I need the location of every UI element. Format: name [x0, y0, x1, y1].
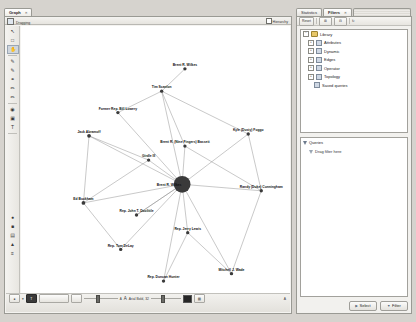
library-item-topology[interactable]: +Topology [301, 73, 407, 82]
graph-edge [162, 91, 182, 184]
library-root-label: Library [320, 32, 332, 37]
rectangle-icon: □ [11, 38, 14, 43]
filter-library-tree[interactable]: − Library +Attributes+Dynamic+Edges+Oper… [300, 29, 408, 133]
graph-node[interactable] [183, 67, 186, 70]
dragging-label: Dragging [16, 21, 30, 25]
select-button[interactable]: ▶ Select [349, 301, 377, 311]
triangle-icon: ▲ [10, 242, 15, 247]
library-item-operator[interactable]: +Operator [301, 64, 407, 73]
graph-node[interactable] [119, 248, 122, 251]
rectangle-select-tool[interactable]: □ [7, 36, 19, 45]
expander-icon[interactable]: + [308, 48, 314, 54]
label-scale-slider[interactable] [151, 295, 181, 302]
heatmap-tool[interactable]: ◉ [7, 105, 19, 114]
graph-node-label: Jack Abramoff [77, 130, 101, 134]
queries-panel[interactable]: Queries Drag filter here [300, 137, 408, 297]
hierarchy-button[interactable]: Hierarchy [266, 18, 288, 24]
graph-node-label: Girdle III [142, 154, 155, 158]
graph-node[interactable] [87, 134, 91, 138]
node-dot-icon: ● [11, 215, 14, 220]
font-value-field[interactable] [39, 294, 69, 303]
expander-icon[interactable]: − [303, 31, 309, 37]
size-tool[interactable]: ▣ [7, 114, 19, 123]
graph-node[interactable] [260, 189, 263, 192]
graph-node-label: Rep. John T. Doolittle [120, 209, 154, 213]
filter-button[interactable]: ▼ Filter [380, 301, 408, 311]
shortest-path-tool[interactable]: ⚭ [7, 75, 19, 84]
dragging-mode-button[interactable]: Dragging [5, 18, 32, 24]
heatmap-icon: ◉ [10, 107, 14, 112]
label-size-slider[interactable] [84, 295, 118, 302]
graph-nodes [82, 67, 263, 283]
label-dropdown-arrow-icon[interactable]: ▾ [22, 297, 24, 301]
slider-track [84, 298, 118, 299]
graph-node-label: Kyle (Dusty) Foggo [233, 128, 264, 132]
library-item-attributes[interactable]: +Attributes [301, 39, 407, 48]
drop-funnel-icon [309, 150, 313, 154]
font-button[interactable]: T [26, 294, 37, 303]
graph-node-label: Rep. Tom DeLay [108, 244, 134, 248]
library-root-row[interactable]: − Library [301, 30, 407, 39]
tool-divider-3 [7, 132, 19, 135]
slider-knob-2[interactable] [161, 295, 165, 303]
queries-placeholder: Drag filter here [315, 149, 341, 154]
label-attributes-tool[interactable]: ≡ [7, 249, 19, 258]
reset-label-button[interactable]: A [284, 297, 286, 301]
node-label-visible-button[interactable]: ● [9, 294, 20, 303]
font-icon: T [30, 297, 32, 301]
graph-node[interactable] [230, 272, 233, 275]
folder-icon [311, 31, 318, 37]
expander-icon[interactable]: + [308, 57, 314, 63]
graph-node[interactable] [160, 89, 163, 92]
font-color-button[interactable] [71, 294, 82, 303]
label-tool[interactable]: T [7, 123, 19, 132]
graph-node[interactable] [82, 201, 86, 205]
autorefresh-button[interactable]: ↻ [352, 19, 355, 23]
graph-window: Dragging Hierarchy ↖ □ ✋ ✎ ✎ ⚭ ✏ ✏ ◉ ▣ T… [4, 16, 292, 314]
edge-label-toggle[interactable]: ■ [7, 222, 19, 231]
tab-graph-label: Graph [9, 10, 21, 15]
expander-icon[interactable]: + [308, 40, 314, 46]
reset-button[interactable]: Reset [299, 17, 314, 26]
label-color-tool[interactable]: ▤ [7, 231, 19, 240]
graph-node[interactable] [135, 213, 138, 216]
graph-node[interactable] [116, 111, 119, 114]
graph-canvas[interactable]: Jack AbramoffEd BuckhamFormer Rep. Bill … [21, 26, 290, 294]
edge-weight-button[interactable]: ▤ [194, 294, 205, 303]
network-graph[interactable]: Jack AbramoffEd BuckhamFormer Rep. Bill … [21, 26, 290, 294]
drag-tool[interactable]: ✋ [7, 45, 19, 54]
brush-tool[interactable]: ✎ [7, 57, 19, 66]
node-pen-icon: ✏ [10, 95, 14, 100]
dock-action-buttons: ▶ Select ▼ Filter [297, 301, 408, 310]
paint-tool[interactable]: ✎ [7, 66, 19, 75]
graph-node[interactable] [183, 144, 186, 147]
slider-knob[interactable] [96, 295, 100, 303]
library-item-label: Saved queries [322, 83, 348, 88]
select-button-label: Select [360, 303, 371, 308]
library-item-dynamic[interactable]: +Dynamic [301, 47, 407, 56]
graph-edge [164, 233, 188, 281]
edge-color-swatch[interactable] [183, 295, 192, 303]
cursor-tool[interactable]: ↖ [7, 27, 19, 36]
graph-node[interactable] [147, 158, 150, 161]
node-pencil-tool[interactable]: ✏ [7, 93, 19, 102]
duplicate-filter-button[interactable]: ⊟ [334, 17, 347, 26]
library-item-saved-queries[interactable]: Saved queries [301, 81, 407, 90]
tab-graph-close-icon[interactable]: × [25, 10, 27, 15]
graph-node[interactable] [186, 231, 189, 234]
hand-icon: ✋ [10, 47, 16, 52]
edge-pencil-tool[interactable]: ✏ [7, 84, 19, 93]
graph-node[interactable] [247, 132, 250, 135]
library-item-edges[interactable]: +Edges [301, 56, 407, 65]
new-filter-button[interactable]: ⊞ [319, 17, 332, 26]
graph-bottom-row-1: ● ▾ T A A Arial Bold, 32 ▤ A [6, 294, 290, 303]
tab-filters-close-icon[interactable]: × [344, 10, 346, 15]
expander-icon[interactable]: + [308, 65, 314, 71]
node-label-toggle[interactable]: ● [7, 213, 19, 222]
graph-node-label: Tim Scanlon [152, 85, 172, 89]
graph-node[interactable] [162, 279, 165, 282]
label-size-tool[interactable]: ▲ [7, 240, 19, 249]
queries-dropzone[interactable]: Drag filter here [301, 147, 407, 156]
expander-icon[interactable]: + [308, 74, 314, 80]
queries-header: Queries [301, 138, 407, 147]
